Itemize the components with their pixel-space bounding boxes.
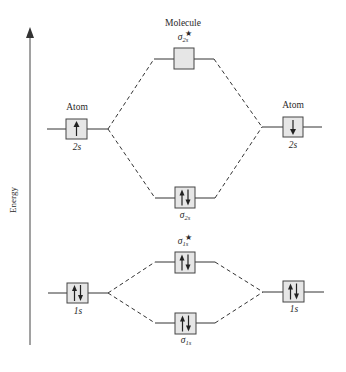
mo-diagram-canvas: [0, 0, 346, 372]
orbital-label-sigma-star-1s: σ1s★: [178, 237, 192, 248]
dash-sigma1s-to-right1s: [215, 292, 263, 323]
orbital-box-sigma-2s: [175, 187, 195, 208]
dash-left2s-to-sigma2s: [108, 129, 155, 198]
orbital-box-right-1s: [283, 281, 304, 302]
molecule-heading: Molecule: [165, 19, 201, 29]
dash-left1s-to-sigma1s: [108, 293, 155, 323]
atom-label-left: Atom: [66, 103, 88, 113]
orbital-box-left-1s: [67, 283, 88, 303]
orbital-box-sigma-star-1s: [175, 252, 195, 273]
orbital-box-sigma-1s: [175, 313, 196, 334]
energy-axis-label: Energy: [8, 187, 18, 213]
orbital-label-left-1s: 1s: [74, 307, 82, 317]
orbital-label-left-2s: 2s: [73, 143, 81, 153]
orbital-label-sigma-1s: σ1s: [181, 336, 191, 347]
dash-sigmastar2s-to-right2s: [214, 59, 262, 127]
orbital-label-right-1s: 1s: [290, 305, 298, 315]
dash-sigmastar1s-to-right1s: [215, 262, 263, 292]
orbital-label-sigma-star-2s: σ2s★: [178, 33, 192, 44]
dash-left1s-to-sigmastar1s: [108, 262, 155, 293]
orbital-box-sigma-star-2s: [174, 48, 194, 69]
atom-label-right: Atom: [282, 101, 304, 111]
dash-left2s-to-sigmastar2s: [108, 59, 154, 129]
energy-axis-arrow-icon: [26, 27, 34, 38]
orbital-label-sigma-2s: σ2s: [180, 211, 190, 222]
dash-sigma2s-to-right2s: [215, 127, 262, 198]
orbital-label-right-2s: 2s: [289, 141, 297, 151]
